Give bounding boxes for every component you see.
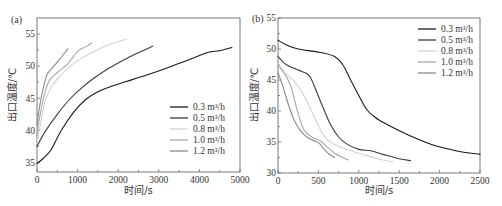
legend-b: 0.3 m³/h0.5 m³/h0.8 m³/h1.0 m³/h1.2 m³/h bbox=[418, 24, 473, 78]
y-tick-label: 55 bbox=[26, 29, 36, 39]
chart-panel-b: (b) 05001000150020002500303540455055 时间/… bbox=[248, 13, 490, 196]
y-tick-label: 50 bbox=[267, 44, 277, 54]
legend-label: 0.8 m³/h bbox=[193, 124, 225, 134]
panel-label-b: (b) bbox=[252, 13, 264, 25]
x-tick-label: 2500 bbox=[471, 176, 490, 186]
legend-label: 0.3 m³/h bbox=[441, 24, 473, 34]
x-tick-label: 1000 bbox=[68, 175, 87, 185]
x-tick-label: 500 bbox=[311, 176, 326, 186]
x-tick-label: 2000 bbox=[109, 175, 128, 185]
legend-a: 0.3 m³/h0.5 m³/h0.8 m³/h1.0 m³/h1.2 m³/h bbox=[170, 102, 225, 156]
y-tick-label: 35 bbox=[26, 158, 36, 168]
y-tick-label: 35 bbox=[267, 137, 277, 147]
legend-label: 1.0 m³/h bbox=[441, 57, 473, 67]
y-tick-label: 55 bbox=[267, 13, 277, 23]
series-line bbox=[278, 56, 411, 160]
legend-label: 1.2 m³/h bbox=[441, 68, 473, 78]
x-tick-label: 5000 bbox=[231, 175, 250, 185]
chart-panel-a: (a) 0100020003000400050003540455055 时间/s… bbox=[6, 14, 250, 196]
y-tick-label: 30 bbox=[267, 168, 277, 178]
x-tick-label: 0 bbox=[35, 175, 40, 185]
legend-label: 0.5 m³/h bbox=[193, 113, 225, 123]
y-tick-label: 40 bbox=[267, 106, 277, 116]
series-line bbox=[278, 63, 394, 162]
x-tick-label: 3000 bbox=[149, 175, 168, 185]
x-tick-label: 0 bbox=[276, 176, 281, 186]
x-axis-title-b: 时间/s bbox=[365, 184, 394, 196]
panel-label-a: (a) bbox=[11, 14, 22, 26]
y-axis-title-b: 出口温度/℃ bbox=[248, 68, 260, 123]
y-tick-label: 40 bbox=[26, 126, 36, 136]
x-axis-title-a: 时间/s bbox=[124, 184, 153, 196]
legend-label: 0.5 m³/h bbox=[441, 35, 473, 45]
y-tick-label: 45 bbox=[267, 75, 277, 85]
y-tick-label: 45 bbox=[26, 94, 36, 104]
series-line bbox=[37, 46, 153, 146]
legend-label: 0.3 m³/h bbox=[193, 102, 225, 112]
series-line bbox=[37, 39, 126, 144]
legend-label: 1.0 m³/h bbox=[193, 135, 225, 145]
y-tick-label: 50 bbox=[26, 61, 36, 71]
legend-label: 0.8 m³/h bbox=[441, 46, 473, 56]
series-line bbox=[37, 49, 68, 125]
figure: (a) 0100020003000400050003540455055 时间/s… bbox=[0, 0, 502, 206]
x-tick-label: 4000 bbox=[190, 175, 209, 185]
legend-label: 1.2 m³/h bbox=[193, 146, 225, 156]
y-axis-title-a: 出口温度/℃ bbox=[6, 68, 18, 123]
x-tick-label: 2000 bbox=[430, 176, 449, 186]
